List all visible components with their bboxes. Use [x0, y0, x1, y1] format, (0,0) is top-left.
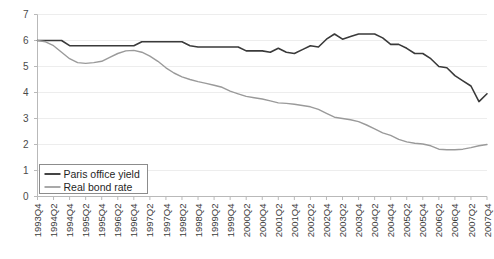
- y-tick-label: 7: [23, 9, 29, 20]
- y-tick-label: 1: [23, 165, 29, 176]
- chart-container: 01234567 1993Q41994Q21994Q41995Q21995Q41…: [0, 0, 494, 259]
- gridlines: [38, 15, 488, 171]
- series-line-paris-office-yield: [38, 34, 488, 102]
- x-tick-label: 1994Q2: [48, 204, 59, 238]
- line-chart: 01234567 1993Q41994Q21994Q41995Q21995Q41…: [0, 0, 494, 259]
- x-axis-tick-labels: 1993Q41994Q21994Q41995Q21995Q41996Q21996…: [32, 204, 493, 238]
- x-tick-label: 2000Q2: [241, 204, 252, 238]
- y-tick-label: 0: [23, 191, 29, 202]
- y-tick-label: 3: [23, 113, 29, 124]
- x-tick-label: 1996Q2: [112, 204, 123, 238]
- x-tick-label: 1997Q4: [161, 204, 172, 238]
- x-tick-label: 2001Q2: [273, 204, 284, 238]
- x-tick-label: 1994Q4: [64, 204, 75, 238]
- x-tick-label: 1995Q4: [96, 204, 107, 238]
- x-tick-label: 1998Q2: [177, 204, 188, 238]
- x-tick-label: 1995Q2: [80, 204, 91, 238]
- x-tick-label: 2003Q4: [353, 204, 364, 238]
- y-axis-tick-labels: 01234567: [23, 9, 29, 202]
- x-tick-label: 2000Q4: [257, 204, 268, 238]
- x-tick-label: 2007Q4: [482, 204, 493, 238]
- x-tick-label: 2003Q2: [337, 204, 348, 238]
- x-tick-label: 2007Q2: [466, 204, 477, 238]
- y-tick-label: 5: [23, 61, 29, 72]
- x-tick-label: 1996Q4: [128, 204, 139, 238]
- x-tick-label: 1999Q4: [225, 204, 236, 238]
- data-series-layer: [38, 34, 488, 150]
- x-tick-label: 2004Q4: [385, 204, 396, 238]
- legend-label-paris-office-yield: Paris office yield: [64, 168, 140, 180]
- x-tick-label: 2002Q2: [305, 204, 316, 238]
- x-tick-label: 2001Q4: [289, 204, 300, 238]
- x-tick-label: 2002Q4: [321, 204, 332, 238]
- y-tick-label: 6: [23, 35, 29, 46]
- y-tick-label: 2: [23, 139, 29, 150]
- series-line-real-bond-rate: [38, 41, 488, 150]
- x-tick-label: 2005Q4: [417, 204, 428, 238]
- x-tick-label: 1993Q4: [32, 204, 43, 238]
- chart-legend: Paris office yieldReal bond rate: [40, 165, 148, 194]
- x-tick-label: 1998Q4: [193, 204, 204, 238]
- x-tick-label: 2005Q2: [401, 204, 412, 238]
- y-tick-label: 4: [23, 87, 29, 98]
- x-tick-label: 1999Q2: [209, 204, 220, 238]
- x-tick-label: 1997Q2: [144, 204, 155, 238]
- x-tick-label: 2004Q2: [369, 204, 380, 238]
- legend-label-real-bond-rate: Real bond rate: [64, 181, 133, 193]
- x-tick-label: 2006Q2: [433, 204, 444, 238]
- x-tick-label: 2006Q4: [449, 204, 460, 238]
